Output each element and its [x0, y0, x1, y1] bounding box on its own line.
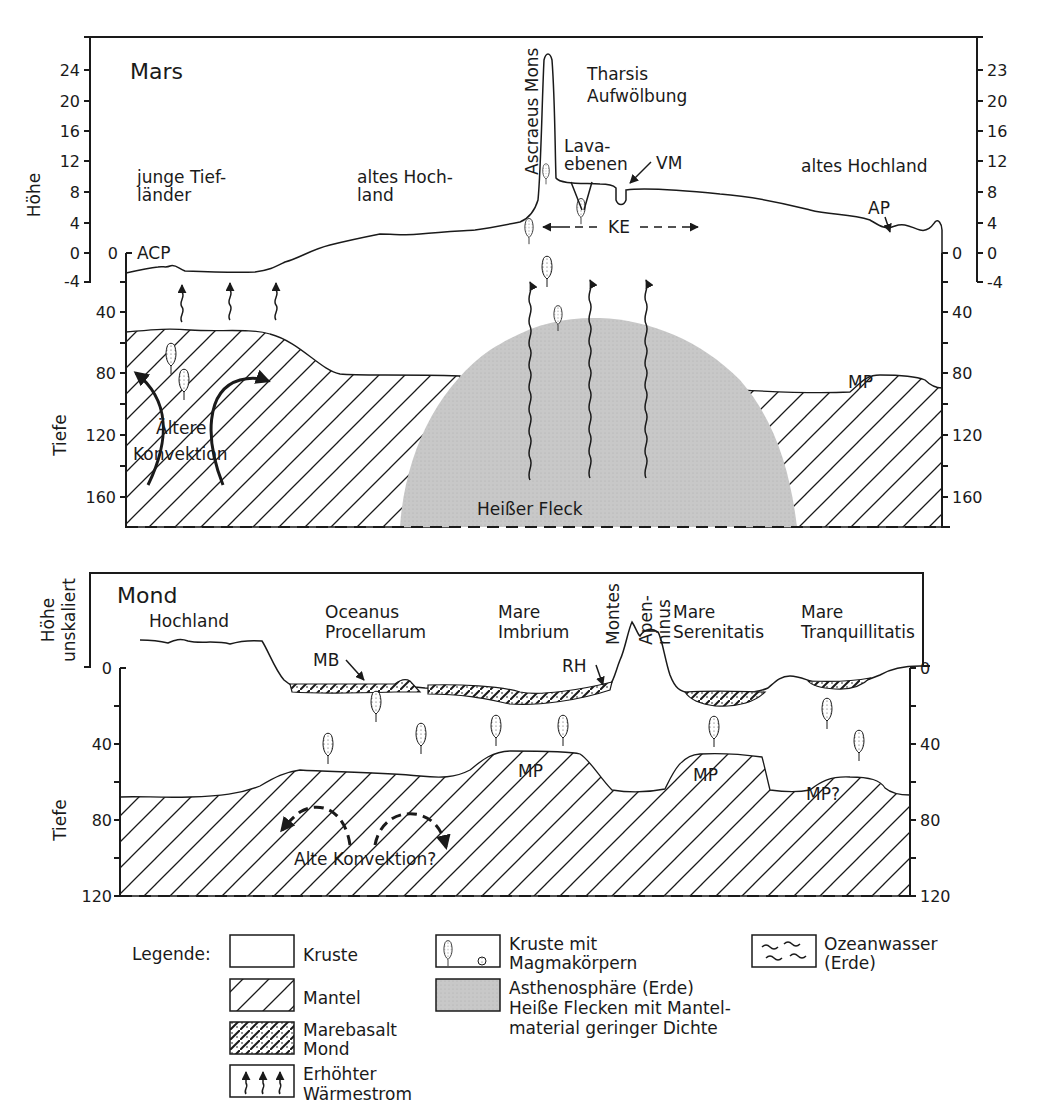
ap-pointer-arrow — [885, 217, 890, 232]
legend-label: Erhöhter — [303, 1064, 377, 1084]
legend-label: Ozeanwasser — [824, 934, 937, 954]
tick-label: 0 — [108, 244, 118, 263]
mars-section: 24 20 16 12 8 4 0 -4 23 20 16 12 8 4 0 -… — [24, 37, 1007, 528]
tick-label: 80 — [920, 811, 940, 830]
tick-label: 40 — [952, 303, 972, 322]
legend-label: material geringer Dichte — [509, 1018, 718, 1038]
label-ap: AP — [868, 198, 890, 218]
legend-label: Magmakörpern — [509, 953, 637, 973]
label-ascraeus-mons: Ascraeus Mons — [522, 47, 542, 175]
mars-ke-span: KE — [543, 217, 698, 237]
legend-title: Legende: — [132, 944, 211, 964]
rh-pointer-arrow — [596, 665, 603, 685]
legend: Legende: Kruste Mantel Marebasalt Mond E… — [132, 934, 937, 1104]
label-convection-2: Konvektion — [133, 444, 227, 464]
mb-pointer-arrow — [346, 660, 364, 680]
tick-label: 0 — [70, 244, 80, 263]
label-young-lowlands-2: länder — [137, 185, 191, 205]
legend-label: Kruste mit — [509, 934, 598, 954]
label-serenitatis-2: Serenitatis — [673, 622, 764, 642]
label-old-highland-mid-2: land — [357, 185, 394, 205]
tick-label: 0 — [920, 659, 930, 678]
tick-label: 120 — [81, 887, 112, 906]
mars-hot-spot — [400, 318, 797, 527]
moon-magma-bodies — [323, 691, 864, 764]
label-mp-mars: MP — [848, 372, 873, 392]
legend-swatch-mantel — [230, 979, 294, 1011]
vm-pointer-arrow — [630, 162, 651, 183]
tick-label: 16 — [60, 122, 80, 141]
legend-item-ozean: Ozeanwasser (Erde) — [752, 934, 937, 973]
legend-item-waermestrom: Erhöhter Wärmestrom — [230, 1064, 412, 1104]
mars-left-height-ticks: 24 20 16 12 8 4 0 -4 — [60, 61, 90, 291]
tick-label: 20 — [987, 92, 1007, 111]
magma-blob-icon — [478, 957, 486, 965]
mars-depth-axis-label: Tiefe — [50, 414, 70, 457]
moon-height-label-1: Höhe — [38, 598, 58, 642]
legend-item-asthenosphaere: Asthenosphäre (Erde) Heiße Flecken mit M… — [436, 978, 731, 1038]
ke-label: KE — [608, 217, 630, 237]
tick-label: 120 — [952, 426, 983, 445]
label-convection-1: Ältere — [156, 418, 207, 438]
tick-label: 160 — [952, 488, 983, 507]
label-apenninus-2: ninus — [654, 599, 674, 645]
label-tharsis-2: Aufwölbung — [587, 86, 687, 106]
tick-label: 40 — [920, 735, 940, 754]
label-young-lowlands-1: junge Tief- — [136, 167, 226, 187]
tick-label: 8 — [987, 183, 997, 202]
label-imbrium-2: Imbrium — [498, 622, 569, 642]
tick-label: 12 — [987, 152, 1007, 171]
tick-label: 120 — [85, 426, 116, 445]
moon-depth-axis-label: Tiefe — [50, 799, 70, 842]
mars-height-axis-label: Höhe — [24, 173, 44, 217]
label-rh: RH — [562, 656, 587, 676]
tick-label: -4 — [64, 272, 80, 291]
label-vm: VM — [656, 153, 682, 173]
label-mp-1: MP — [518, 761, 543, 781]
label-apenninus-1: Apen- — [636, 595, 656, 645]
tick-label: 16 — [987, 122, 1007, 141]
label-lava-2: ebenen — [564, 154, 628, 174]
label-lava-1: Lava- — [564, 136, 611, 156]
tick-label: 80 — [96, 364, 116, 383]
legend-swatch-kruste — [230, 935, 294, 967]
label-hot-spot: Heißer Fleck — [477, 499, 583, 519]
label-mp-3: MP? — [806, 784, 840, 804]
label-montes: Montes — [603, 583, 623, 645]
tick-label: 23 — [987, 61, 1007, 80]
label-procellarum-2: Procellarum — [325, 622, 426, 642]
legend-label: (Erde) — [824, 953, 876, 973]
moon-section: Höhe unskaliert 0 40 80 120 0 40 80 120 … — [38, 573, 951, 906]
tick-label: 0 — [987, 244, 997, 263]
tick-label: 4 — [987, 214, 997, 233]
tick-label: 4 — [70, 214, 80, 233]
label-acp: ACP — [137, 243, 170, 263]
label-moon-convection: Alte Konvektion? — [294, 849, 436, 869]
label-imbrium-1: Mare — [498, 602, 540, 622]
legend-label: Asthenosphäre (Erde) — [509, 978, 694, 998]
label-tranquillitatis-1: Mare — [801, 602, 843, 622]
tick-label: 0 — [952, 244, 962, 263]
tick-label: 12 — [60, 152, 80, 171]
tick-label: 24 — [60, 61, 80, 80]
label-tranquillitatis-2: Tranquillitatis — [800, 622, 915, 642]
mars-right-depth-axis — [942, 253, 948, 528]
tick-label: 40 — [92, 735, 112, 754]
legend-label: Marebasalt — [303, 1020, 397, 1040]
legend-label: Kruste — [303, 945, 358, 965]
tick-label: 0 — [102, 659, 112, 678]
legend-item-kruste: Kruste — [230, 935, 358, 967]
tick-label: 80 — [92, 811, 112, 830]
tick-label: 20 — [60, 92, 80, 111]
legend-label: Mantel — [303, 988, 361, 1008]
mars-right-height-ticks: 23 20 16 12 8 4 0 -4 — [977, 61, 1007, 292]
label-tharsis-1: Tharsis — [586, 64, 648, 84]
tick-label: -4 — [987, 273, 1003, 292]
tick-label: 120 — [920, 887, 951, 906]
label-procellarum-1: Oceanus — [325, 602, 399, 622]
mars-title: Mars — [130, 59, 183, 84]
legend-swatch-ozean — [752, 935, 816, 967]
label-mp-2: MP — [693, 765, 718, 785]
tick-label: 160 — [85, 488, 116, 507]
moon-title: Mond — [117, 583, 177, 608]
